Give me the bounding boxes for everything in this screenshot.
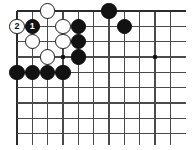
stone-white [55,19,70,34]
stone-black [71,19,86,34]
move-stone-1-black: 1 [25,19,40,34]
move-stone-2-white: 2 [9,19,24,34]
stone-black [9,65,24,80]
stone-white [40,3,55,18]
stone-layer: 21 [0,0,193,150]
stone-move-number: 2 [14,22,19,31]
stone-black [71,49,86,64]
star-point [153,55,156,58]
stone-black [55,65,70,80]
star-point [61,55,64,58]
stone-white [25,34,40,49]
stone-black [40,65,55,80]
stone-black [71,34,86,49]
stone-black [117,19,132,34]
go-board-diagram: 21 [0,0,193,150]
stone-white [40,49,55,64]
stone-black [25,65,40,80]
stone-move-number: 1 [30,22,35,31]
stone-black [101,3,116,18]
stone-white [55,34,70,49]
